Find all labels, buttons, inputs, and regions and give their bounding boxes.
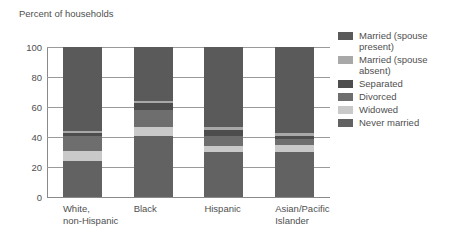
bar-segment	[275, 47, 314, 133]
y-axis-tick-label: 80	[31, 72, 42, 83]
bar-segment	[134, 47, 173, 101]
legend-item-label: Never married	[359, 117, 419, 128]
legend-item-label: Married (spouse absent)	[359, 54, 428, 76]
bar-group	[134, 47, 173, 197]
legend-swatch	[338, 119, 353, 127]
gridline-0: 0	[47, 197, 330, 198]
bar-segment	[275, 152, 314, 197]
y-axis-spine	[47, 47, 48, 197]
bar-segment	[204, 136, 243, 147]
legend-item[interactable]: Never married	[338, 117, 461, 128]
legend-swatch	[338, 32, 353, 40]
legend-swatch	[338, 93, 353, 101]
bar-segment	[275, 136, 314, 139]
x-axis-category-label: Hispanic	[204, 203, 240, 215]
bar-segment	[63, 136, 102, 150]
bar-segment	[134, 127, 173, 136]
y-axis-tick-label: 20	[31, 162, 42, 173]
x-axis-category-label: Asian/Pacific Islander	[275, 203, 329, 226]
x-axis-category-label: White, non-Hispanic	[63, 203, 118, 226]
legend-item-label: Divorced	[359, 91, 397, 102]
bar-segment	[134, 101, 173, 103]
y-axis-tick-label: 0	[37, 192, 42, 203]
bar-segment	[275, 139, 314, 145]
legend-item-label: Separated	[359, 78, 403, 89]
plot-area: 020406080100	[47, 47, 330, 197]
bar-segment	[63, 131, 102, 133]
bar-segment	[204, 47, 243, 127]
legend-item[interactable]: Widowed	[338, 104, 461, 115]
stacked-bar-chart: Percent of households 020406080100 Marri…	[0, 0, 461, 251]
bar-segment	[63, 151, 102, 162]
legend-swatch	[338, 56, 353, 64]
bar-segment	[134, 110, 173, 127]
legend-item-label: Married (spouse present)	[359, 30, 428, 52]
legend-item[interactable]: Separated	[338, 78, 461, 89]
bar-segment	[204, 130, 243, 136]
bar-segment	[134, 103, 173, 110]
legend-swatch	[338, 80, 353, 88]
legend-swatch	[338, 106, 353, 114]
bar-segment	[63, 161, 102, 197]
bar-segment	[275, 133, 314, 136]
bar-segment	[275, 145, 314, 152]
y-axis-tick-label: 40	[31, 132, 42, 143]
y-axis-title: Percent of households	[19, 8, 114, 20]
bar-segment	[204, 152, 243, 197]
bar-segment	[63, 47, 102, 131]
bar-group	[275, 47, 314, 197]
y-axis-tick-label: 100	[26, 42, 42, 53]
chart-legend: Married (spouse present)Married (spouse …	[338, 30, 461, 130]
legend-item-label: Widowed	[359, 104, 398, 115]
x-axis-category-label: Black	[134, 203, 157, 215]
bar-segment	[204, 127, 243, 130]
bar-group	[63, 47, 102, 197]
bar-segment	[204, 146, 243, 152]
legend-item[interactable]: Married (spouse absent)	[338, 54, 461, 76]
bar-group	[204, 47, 243, 197]
legend-item[interactable]: Married (spouse present)	[338, 30, 461, 52]
y-axis-tick-label: 60	[31, 102, 42, 113]
bar-segment	[134, 136, 173, 198]
bar-segment	[63, 133, 102, 136]
legend-item[interactable]: Divorced	[338, 91, 461, 102]
